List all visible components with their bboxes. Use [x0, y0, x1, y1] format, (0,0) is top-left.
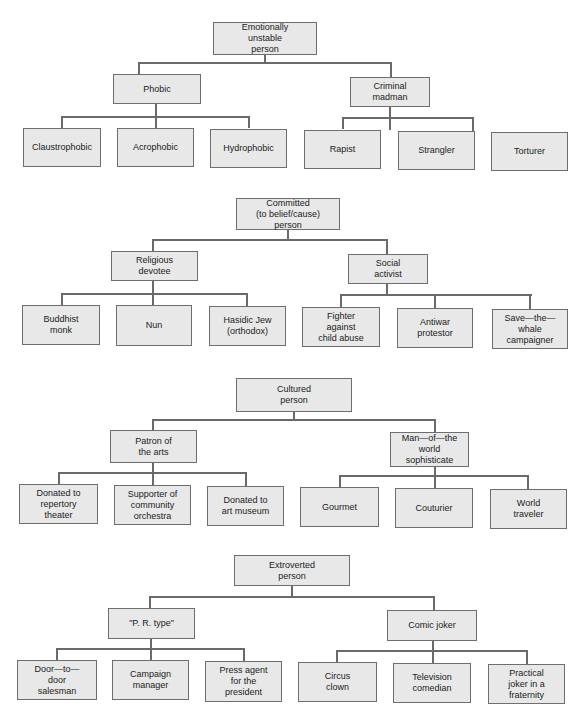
leaf-node: Press agent for the president — [205, 661, 282, 702]
leaf-node: World traveler — [490, 489, 567, 529]
connector — [61, 293, 63, 305]
root-node: Cultured person — [236, 378, 352, 412]
connector — [246, 293, 248, 306]
leaf-node: Hydrophobic — [210, 129, 287, 168]
connector — [138, 62, 140, 74]
connector — [58, 472, 60, 484]
branch-node: Phobic — [113, 74, 201, 104]
connector — [155, 116, 157, 128]
root-node: Emotionally unstable person — [213, 22, 317, 55]
leaf-node: Door—to— door salesman — [17, 660, 97, 700]
branch-node: Comic joker — [387, 610, 477, 641]
branch-node: Criminal madman — [350, 77, 430, 107]
connector — [340, 294, 532, 296]
connector — [61, 293, 247, 295]
leaf-node: Strangler — [398, 131, 475, 170]
branch-node: Man—of—the world sophisticate — [390, 432, 469, 467]
connector — [389, 117, 391, 130]
connector — [434, 475, 436, 488]
connector — [152, 419, 154, 430]
leaf-node: Fighter against child abuse — [302, 307, 380, 347]
leaf-node: Practical joker in a fraternity — [488, 664, 565, 704]
connector — [61, 116, 63, 128]
root-node: Committed (to belief/cause) person — [236, 198, 340, 230]
connector — [342, 117, 474, 119]
leaf-node: Donated to repertory theater — [19, 484, 98, 524]
root-node: Extroverted person — [234, 555, 350, 586]
connector — [152, 239, 154, 251]
connector — [527, 475, 529, 489]
connector — [342, 117, 344, 129]
leaf-node: Circus clown — [298, 662, 377, 702]
connector — [390, 62, 392, 77]
connector — [386, 239, 388, 254]
leaf-node: Buddhist monk — [22, 305, 100, 345]
connector — [152, 239, 388, 241]
connector — [152, 281, 154, 293]
connector — [152, 472, 154, 485]
leaf-node: Acrophobic — [117, 128, 194, 167]
connector — [152, 419, 436, 421]
branch-node: "P. R. type" — [108, 608, 195, 639]
leaf-node: Hasidic Jew (orthodox) — [209, 306, 286, 346]
connector — [472, 117, 474, 131]
leaf-node: Couturier — [395, 488, 473, 528]
connector — [434, 294, 436, 308]
leaf-node: Campaign manager — [112, 660, 189, 700]
branch-node: Patron of the arts — [110, 430, 197, 463]
connector — [155, 104, 157, 116]
connector — [386, 284, 388, 294]
leaf-node: Rapist — [304, 130, 381, 169]
connector — [434, 419, 436, 432]
leaf-node: Supporter of community orchestra — [114, 485, 191, 525]
connector — [149, 596, 435, 598]
leaf-node: Donated to art museum — [207, 486, 284, 526]
connector — [529, 294, 531, 309]
connector — [340, 294, 342, 307]
connector — [149, 596, 151, 608]
leaf-node: Nun — [116, 305, 192, 346]
connector — [150, 648, 152, 660]
leaf-node: Torturer — [491, 132, 568, 171]
connector — [432, 650, 434, 663]
leaf-node: Gourmet — [300, 487, 379, 527]
connector — [336, 650, 338, 662]
connector — [287, 230, 289, 239]
leaf-node: Antiwar protestor — [397, 308, 473, 348]
connector — [526, 650, 528, 664]
leaf-node: Save—the— whale campaigner — [492, 309, 568, 349]
leaf-node: Television comedian — [393, 663, 471, 703]
connector — [138, 62, 392, 64]
branch-node: Social activist — [348, 254, 428, 284]
leaf-node: Claustrophobic — [23, 128, 101, 167]
connector — [56, 648, 58, 660]
connector — [152, 293, 154, 305]
connector — [433, 596, 435, 610]
connector — [339, 475, 341, 487]
connector — [243, 648, 245, 661]
connector — [389, 107, 391, 117]
branch-node: Religious devotee — [111, 251, 198, 281]
connector — [245, 472, 247, 486]
connector — [248, 116, 250, 128]
